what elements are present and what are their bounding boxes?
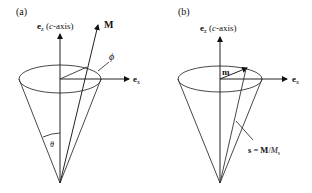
- ez-axis-label: ez (c-axis): [37, 21, 73, 32]
- cone-right-edge: [60, 79, 101, 183]
- cone-left-edge: [178, 79, 220, 183]
- phi-angle-label: ϕ: [109, 51, 114, 62]
- precession-cone-diagram: (a) ez (c-axis) ex M ϕ θ (b): [0, 0, 312, 193]
- s-vector-line: [220, 69, 246, 183]
- m-projection-label: m: [222, 67, 230, 77]
- phi-leader-line: [98, 62, 109, 71]
- cone-left-edge: [19, 79, 60, 183]
- theta-angle-label: θ: [50, 140, 54, 149]
- panel-a-label: (a): [16, 6, 27, 18]
- panel-b: (b) ez (c-axis) ex m s = M/Ms: [178, 6, 299, 183]
- m-vector-arrow: [60, 25, 98, 183]
- azimuth-projection-line: [60, 67, 87, 79]
- cone-right-edge: [220, 79, 262, 183]
- theta-arc: [43, 133, 60, 137]
- ex-axis-label: ex: [133, 74, 140, 85]
- panel-a: (a) ez (c-axis) ex M ϕ θ: [16, 6, 140, 183]
- ez-axis-label: ez (c-axis): [200, 23, 236, 34]
- panel-b-label: (b): [178, 6, 190, 18]
- ex-axis-label: ex: [292, 74, 299, 85]
- s-equation-label: s = M/Ms: [248, 145, 280, 156]
- m-vector-label: M: [104, 19, 114, 30]
